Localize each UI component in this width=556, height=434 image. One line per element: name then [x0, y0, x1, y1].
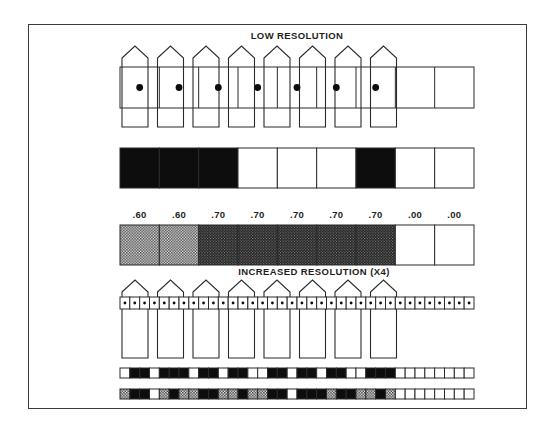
sample-dot-small: [419, 302, 422, 305]
probability-strip-cell: [356, 389, 366, 399]
picket: [122, 280, 148, 358]
probability-value-label: .60: [133, 209, 147, 220]
sample-dot: [333, 84, 340, 91]
occupancy-strip-cell: [218, 368, 228, 378]
probability-strip-cell: [277, 389, 287, 399]
sample-dot-small: [330, 302, 333, 305]
occupancy-strip-cell: [386, 368, 396, 378]
probability-strip-cell: [130, 389, 140, 399]
sample-dot-small: [163, 302, 166, 305]
probability-strip-cell: [268, 389, 278, 399]
low-res-probability-bar: [120, 225, 474, 265]
probability-value-label: .00: [447, 209, 461, 220]
probability-strip-cell: [120, 389, 130, 399]
probability-strip-cell: [415, 389, 425, 399]
probability-cell: [435, 225, 474, 265]
probability-strip-cell: [376, 389, 386, 399]
occupancy-strip-cell: [140, 368, 150, 378]
picket: [193, 280, 219, 358]
sample-dot-small: [173, 302, 176, 305]
sample-dot-small: [143, 302, 146, 305]
occupancy-cell: [159, 148, 198, 188]
sample-dot: [136, 84, 143, 91]
occupancy-strip-cell: [464, 368, 474, 378]
probability-cell: [277, 225, 316, 265]
occupancy-cell: [435, 148, 474, 188]
high-res-sample-strip: [120, 297, 474, 309]
occupancy-strip-cell: [395, 368, 405, 378]
probability-strip-cell: [464, 389, 474, 399]
probability-strip-cell: [258, 389, 268, 399]
probability-strip-cell: [238, 389, 248, 399]
figure-page: LOW RESOLUTION INCREASED RESOLUTION (X4)…: [0, 0, 556, 434]
probability-strip-cell: [395, 389, 405, 399]
probability-value-label: .70: [290, 209, 304, 220]
picket: [335, 280, 361, 358]
sample-dot-small: [232, 302, 235, 305]
probability-strip-cell: [159, 389, 169, 399]
probability-strip-cell: [179, 389, 189, 399]
occupancy-strip-cell: [336, 368, 346, 378]
probability-strip-cell: [346, 389, 356, 399]
occupancy-strip-cell: [297, 368, 307, 378]
occupancy-strip-cell: [130, 368, 140, 378]
probability-value-label: .70: [369, 209, 383, 220]
probability-value-label: .00: [408, 209, 422, 220]
probability-strip-cell: [336, 389, 346, 399]
sample-dot-small: [310, 302, 313, 305]
sample-dot-small: [261, 302, 264, 305]
picket: [229, 46, 255, 127]
occupancy-strip-cell: [277, 368, 287, 378]
probability-strip-cell: [454, 389, 464, 399]
sample-dot-small: [133, 302, 136, 305]
probability-cell: [395, 225, 434, 265]
occupancy-cell: [199, 148, 238, 188]
occupancy-strip-cell: [209, 368, 219, 378]
sample-dot-small: [360, 302, 363, 305]
sample-dot-small: [281, 302, 284, 305]
probability-strip-cell: [150, 389, 160, 399]
probability-strip-cell: [307, 389, 317, 399]
occupancy-strip-cell: [169, 368, 179, 378]
occupancy-strip-cell: [317, 368, 327, 378]
probability-strip-cell: [317, 389, 327, 399]
probability-cell: [159, 225, 198, 265]
occupancy-cell: [277, 148, 316, 188]
picket: [229, 280, 255, 358]
sample-dot-small: [428, 302, 431, 305]
probability-cell: [199, 225, 238, 265]
sample-dot-small: [301, 302, 304, 305]
picket: [158, 280, 184, 358]
probability-strip-cell: [425, 389, 435, 399]
occupancy-strip-cell: [150, 368, 160, 378]
occupancy-strip-cell: [425, 368, 435, 378]
probability-strip-cell: [209, 389, 219, 399]
occupancy-strip-cell: [248, 368, 258, 378]
low-res-occupancy-bar: [120, 148, 474, 188]
sample-dot-small: [369, 302, 372, 305]
occupancy-strip-cell: [287, 368, 297, 378]
sample-dot-small: [251, 302, 254, 305]
probability-strip-cell: [228, 389, 238, 399]
occupancy-cell: [238, 148, 277, 188]
probability-value-label: .70: [329, 209, 343, 220]
occupancy-strip-cell: [366, 368, 376, 378]
probability-strip-cell: [140, 389, 150, 399]
occupancy-cell: [120, 148, 159, 188]
sample-dot-small: [389, 302, 392, 305]
picket: [264, 280, 290, 358]
occupancy-strip-cell: [258, 368, 268, 378]
occupancy-strip-cell: [415, 368, 425, 378]
sample-dot-small: [153, 302, 156, 305]
sample-dot-small: [350, 302, 353, 305]
probability-value-label: .60: [172, 209, 186, 220]
probability-strip-cell: [297, 389, 307, 399]
probability-value-label: .70: [211, 209, 225, 220]
occupancy-strip-cell: [228, 368, 238, 378]
sample-dot-small: [409, 302, 412, 305]
occupancy-strip-cell: [159, 368, 169, 378]
probability-cell: [356, 225, 395, 265]
sample-dot-small: [271, 302, 274, 305]
sample-dot-small: [242, 302, 245, 305]
occupancy-cell: [356, 148, 395, 188]
